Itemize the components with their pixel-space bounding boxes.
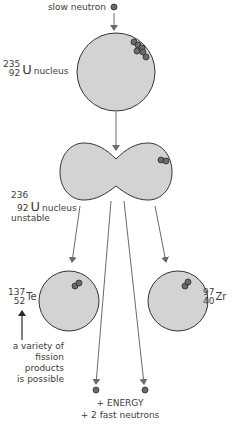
- u236-unstable-note: unstable: [11, 213, 77, 223]
- u235-atomic-number: 92: [3, 69, 20, 78]
- energy-label: + ENERGY: [70, 397, 170, 409]
- fission-products-annotation: a variety of fission products is possibl…: [2, 341, 64, 385]
- te-numbers: 137 52: [8, 288, 25, 306]
- annotation-line-3: products: [2, 363, 64, 374]
- te-nucleus: [39, 271, 99, 331]
- outputs-label: + ENERGY + 2 fast neutrons: [70, 397, 170, 421]
- u236-nucleus-label: nucleus: [42, 203, 77, 213]
- zr-atomic-number: 40: [203, 297, 214, 306]
- zr-label: 97 40 Zr: [203, 288, 226, 306]
- u236-neutron-pair: [158, 157, 169, 164]
- u235-label: 235 92 Unucleus: [3, 60, 69, 78]
- slow-neutron-text: slow neutron: [48, 2, 106, 12]
- te-label: 137 52 Te: [8, 288, 37, 306]
- fast-neutrons-label: + 2 fast neutrons: [70, 409, 170, 421]
- zr-numbers: 97 40: [203, 288, 214, 306]
- arrow-to-zr: [155, 206, 166, 262]
- u235-nucleus-label: nucleus: [34, 66, 69, 76]
- fast-neutron-left: [93, 387, 99, 393]
- zr-symbol: Zr: [215, 291, 226, 302]
- te-atomic-number: 52: [8, 297, 25, 306]
- u236-nucleus: [60, 143, 172, 200]
- te-symbol: Te: [26, 291, 37, 302]
- annotation-line-1: a variety of: [2, 341, 64, 352]
- u236-atomic-number: 92: [17, 203, 28, 213]
- u236-label: 236 92Unucleus unstable: [11, 190, 77, 223]
- slow-neutron: [111, 4, 117, 10]
- u235-numbers: 235 92: [3, 60, 20, 78]
- arrow-to-neutron-right: [124, 201, 144, 384]
- u236-symbol: U: [30, 199, 40, 214]
- annotation-line-4: is possible: [2, 374, 64, 385]
- annotation-line-2: fission: [2, 352, 64, 363]
- fission-diagram: slow neutron 235 92 Unucleus 236 92Unucl…: [0, 0, 232, 426]
- slow-neutron-label: slow neutron: [30, 2, 106, 12]
- zr-nucleus: [148, 271, 208, 331]
- u235-symbol: U: [22, 62, 32, 77]
- fast-neutron-right: [142, 387, 148, 393]
- u236-mass-number: 236: [11, 190, 77, 200]
- u235-nucleus: [77, 33, 155, 111]
